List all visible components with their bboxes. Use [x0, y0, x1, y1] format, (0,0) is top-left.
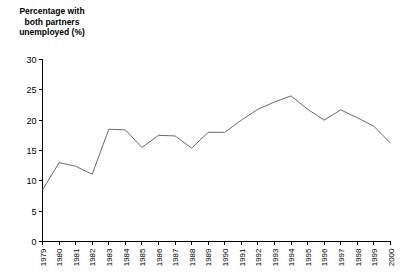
y-axis-tick-label: 25 [26, 85, 36, 95]
x-axis-tick-label: 1991 [238, 248, 247, 266]
y-axis-tick-label: 15 [26, 146, 36, 156]
x-axis-tick-label: 1980 [55, 248, 64, 266]
x-axis-tick-label: 1989 [204, 248, 213, 266]
x-axis-tick-label: 1986 [155, 248, 164, 266]
y-axis-tick-label: 20 [26, 116, 36, 126]
x-axis-tick-label: 1994 [287, 248, 296, 266]
x-axis-tick-label: 1988 [188, 248, 197, 266]
x-axis-tick-label: 1999 [370, 248, 379, 266]
x-axis-tick-label: 1997 [337, 248, 346, 266]
x-axis-tick-label: 1983 [105, 248, 114, 266]
x-axis-tick-label: 1990 [221, 248, 230, 266]
x-axis-tick-label: 1985 [138, 248, 147, 266]
y-axis-tick-label: 10 [26, 176, 36, 186]
x-axis-tick-label: 1987 [171, 248, 180, 266]
x-axis-tick-label: 1996 [320, 248, 329, 266]
y-axis-tick-label: 0 [31, 237, 36, 247]
x-axis-tick-label: 1982 [88, 248, 97, 266]
x-axis-tick-label: 1981 [72, 248, 81, 266]
x-axis-tick-label: 1979 [39, 248, 48, 266]
x-axis-tick-label: 1984 [122, 248, 131, 266]
y-axis-tick-label: 5 [31, 207, 36, 217]
y-axis-tick-label: 30 [26, 55, 36, 65]
chart-container: Percentage with both partners unemployed… [0, 0, 417, 276]
line-chart-plot: 0510152025301979198019811982198319841985… [0, 0, 417, 276]
x-axis-tick-label: 1992 [254, 248, 263, 266]
x-axis-tick-label: 1993 [271, 248, 280, 266]
x-axis-tick-label: 2000 [387, 248, 396, 266]
x-axis-tick-label: 1995 [304, 248, 313, 266]
x-axis-tick-label: 1998 [354, 248, 363, 266]
data-series-line [43, 96, 391, 190]
